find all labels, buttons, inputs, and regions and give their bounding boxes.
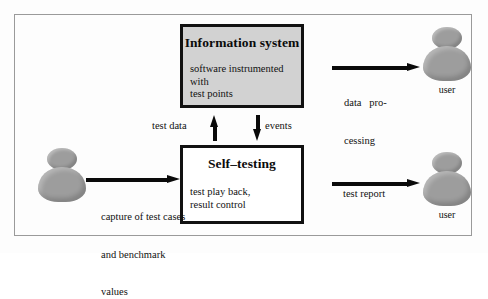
flow-label-capture-line-1: capture of test cases	[101, 211, 185, 224]
self-testing-body-line-1: test play back,	[190, 186, 301, 199]
person-body-icon	[423, 46, 471, 81]
arrow-shaft	[86, 178, 167, 182]
self-testing-body-line-2: result control	[190, 199, 301, 212]
arrow-test-data-up	[210, 115, 219, 141]
information-system-body-line-1: software instrumented with	[190, 63, 301, 88]
person-body-icon	[38, 167, 86, 202]
arrow-test-report-right	[332, 179, 420, 188]
actor-tester[interactable]	[36, 148, 88, 205]
actor-user-bottom[interactable]: user	[421, 152, 473, 220]
arrow-events-down	[253, 115, 262, 141]
self-testing-box[interactable]: Self–testing test play back, result cont…	[180, 145, 304, 224]
arrow-head-icon	[407, 63, 420, 71]
flow-label-capture: capture of test cases and benchmark valu…	[101, 186, 185, 299]
actor-user-top[interactable]: user	[421, 27, 473, 95]
arrow-data-processing-right	[332, 63, 420, 72]
information-system-box[interactable]: Information system software instrumented…	[180, 24, 304, 108]
information-system-body-line-2: test points	[190, 88, 301, 101]
arrow-shaft	[332, 66, 407, 70]
flow-label-test-data: test data	[152, 120, 187, 133]
person-body-icon	[423, 171, 471, 206]
arrow-shaft	[256, 115, 260, 130]
actor-user-top-label: user	[421, 84, 473, 95]
information-system-body: software instrumented with test points	[190, 63, 301, 101]
arrow-head-icon	[253, 129, 261, 141]
flow-label-data-processing-line-1: data pro-	[344, 97, 387, 110]
self-testing-title: Self–testing	[183, 156, 301, 172]
information-system-title: Information system	[183, 35, 301, 51]
arrow-shaft	[213, 126, 217, 141]
flow-label-data-processing-line-2: cessing	[344, 135, 387, 148]
person-icon	[36, 148, 88, 202]
actor-user-bottom-label: user	[421, 209, 473, 220]
flow-label-capture-line-3: values	[101, 286, 185, 299]
arrow-capture-right	[86, 175, 180, 184]
flow-label-test-report: test report	[343, 188, 385, 201]
person-icon	[421, 152, 473, 206]
arrow-head-icon	[407, 179, 420, 187]
flow-label-capture-line-2: and benchmark	[101, 249, 185, 262]
person-icon	[421, 27, 473, 81]
flow-label-data-processing: data pro- cessing	[344, 72, 387, 172]
flow-label-events: events	[265, 120, 292, 133]
arrow-shaft	[332, 182, 407, 186]
self-testing-body: test play back, result control	[190, 186, 301, 211]
arrow-head-icon	[167, 175, 180, 183]
